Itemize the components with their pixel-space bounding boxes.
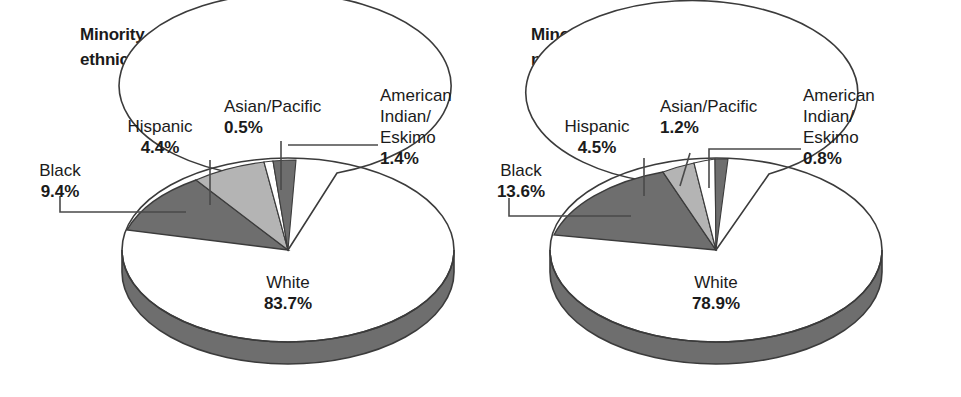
label-asian-pacific-name: Asian/Pacific	[660, 96, 790, 117]
label-white-pct: 78.9%	[666, 293, 766, 314]
label-american-indian-name: American Indian/ Eskimo	[803, 85, 913, 148]
label-black: Black 9.4%	[6, 160, 114, 202]
label-black-name: Black	[6, 160, 114, 181]
label-asian-pacific-name: Asian/Pacific	[224, 96, 354, 117]
label-american-indian-name: American Indian/ Eskimo	[380, 85, 480, 148]
label-white-pct: 83.7%	[238, 293, 338, 314]
label-white-name: White	[666, 272, 766, 293]
label-black-pct: 9.4%	[6, 181, 114, 202]
label-asian-pacific-pct: 0.5%	[224, 117, 354, 138]
label-black-pct: 13.6%	[465, 181, 577, 202]
label-asian-pacific: Asian/Pacific 0.5%	[224, 96, 354, 138]
label-white: White 83.7%	[238, 272, 338, 314]
chart-panel-dollars: Minority-contracted dollars per ethnic n…	[0, 0, 480, 397]
chart-panel-contracts: Minority contracts per ethnic neighborho…	[481, 0, 961, 397]
label-black: Black 13.6%	[465, 160, 577, 202]
label-hispanic: Hispanic 4.5%	[541, 116, 653, 158]
label-white-name: White	[238, 272, 338, 293]
label-asian-pacific-pct: 1.2%	[660, 117, 790, 138]
label-hispanic-pct: 4.4%	[104, 137, 216, 158]
label-hispanic: Hispanic 4.4%	[104, 116, 216, 158]
label-american-indian-pct: 0.8%	[803, 148, 913, 169]
label-black-name: Black	[465, 160, 577, 181]
label-american-indian: American Indian/ Eskimo 0.8%	[803, 85, 913, 169]
label-american-indian: American Indian/ Eskimo 1.4%	[380, 85, 480, 169]
label-hispanic-name: Hispanic	[104, 116, 216, 137]
label-white: White 78.9%	[666, 272, 766, 314]
label-hispanic-pct: 4.5%	[541, 137, 653, 158]
label-asian-pacific: Asian/Pacific 1.2%	[660, 96, 790, 138]
label-hispanic-name: Hispanic	[541, 116, 653, 137]
